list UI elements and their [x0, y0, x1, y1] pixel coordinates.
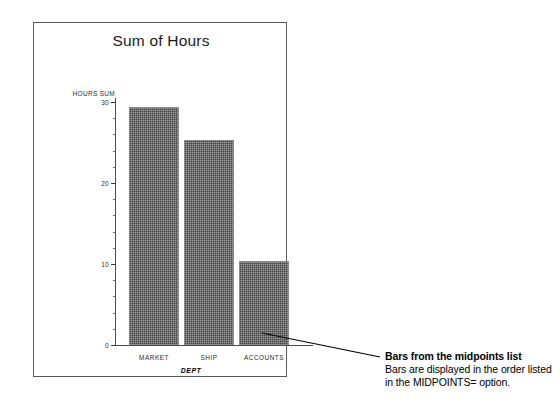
- value-axis-tick-label: 20: [101, 180, 109, 187]
- value-axis-tick-label: 30: [101, 99, 109, 106]
- value-axis-tick-minor: [113, 296, 116, 297]
- value-axis-tick-major: [111, 264, 116, 265]
- value-axis-tick-minor: [113, 151, 116, 152]
- value-axis-tick-label: 10: [101, 261, 109, 268]
- callout-line-2: in the MIDPOINTS= option.: [385, 376, 557, 389]
- value-axis-tick-minor: [113, 329, 116, 330]
- callout-line-1: Bars are displayed in the order listed: [385, 363, 557, 376]
- value-axis-tick-major: [111, 183, 116, 184]
- value-axis-tick-minor: [113, 215, 116, 216]
- category-label: SHIP: [201, 354, 218, 361]
- chart-title: Sum of Hours: [34, 32, 288, 50]
- value-axis-tick-minor: [113, 118, 116, 119]
- value-axis-tick-minor: [113, 199, 116, 200]
- category-axis-line: [115, 345, 313, 346]
- value-axis-tick-label: 0: [105, 342, 109, 349]
- value-axis-tick-minor: [113, 167, 116, 168]
- value-axis-tick-minor: [113, 248, 116, 249]
- callout-heading: Bars from the midpoints list: [385, 350, 557, 363]
- value-axis-tick-minor: [113, 313, 116, 314]
- value-axis-tick-major: [111, 345, 116, 346]
- value-axis-tick-minor: [113, 280, 116, 281]
- callout-annotation: Bars from the midpoints list Bars are di…: [385, 350, 557, 389]
- value-axis-tick-minor: [113, 134, 116, 135]
- value-axis-tick-minor: [113, 232, 116, 233]
- value-axis-tick-major: [111, 102, 116, 103]
- bar: [184, 140, 234, 345]
- category-label: MARKET: [139, 354, 169, 361]
- category-axis-caption: DEPT: [181, 367, 201, 374]
- category-label: ACCOUNTS: [244, 354, 284, 361]
- value-axis-caption: HOURS SUM: [71, 90, 115, 97]
- chart-frame: Sum of Hours HOURS SUM 0102030 MARKETSHI…: [33, 22, 287, 377]
- bar: [239, 261, 289, 345]
- bar: [129, 107, 179, 345]
- plot-area: HOURS SUM 0102030 MARKETSHIPACCOUNTS DEP…: [115, 102, 315, 345]
